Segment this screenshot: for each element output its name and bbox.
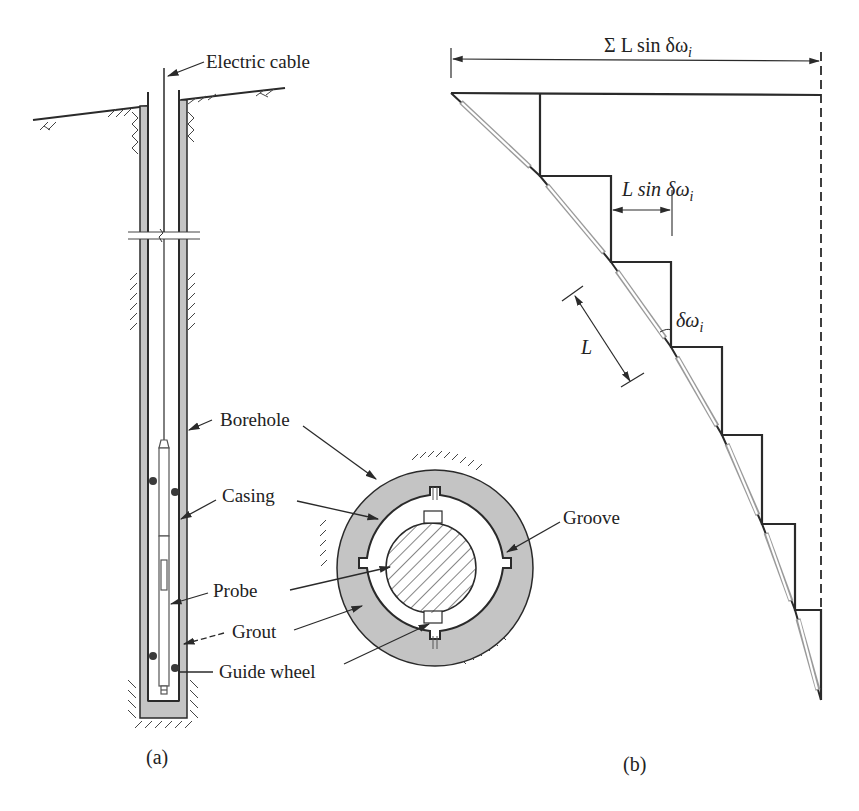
label-grout: Grout (232, 621, 277, 642)
caption-panel-b: (b) (623, 753, 646, 776)
figure-svg: Electric cable Borehole Casing Probe Gro… (0, 0, 859, 811)
label-segment-length: L (580, 336, 592, 358)
label-groove: Groove (563, 507, 620, 528)
ground-surface-right (181, 88, 285, 100)
label-total-deflection: Σ L sin δωi (604, 34, 692, 60)
label-borehole: Borehole (220, 409, 290, 430)
ground-surface-left (33, 106, 148, 120)
label-step-deflection: L sin δωi (621, 178, 694, 204)
total-deflection-dimension (453, 59, 819, 61)
label-guide-wheel: Guide wheel (219, 661, 316, 682)
guide-wheel-icon (149, 652, 157, 660)
probe (159, 440, 169, 694)
guide-wheel-icon (149, 477, 157, 485)
caption-panel-a: (a) (146, 746, 168, 769)
guide-wheel-icon (171, 488, 179, 496)
label-angle: δωi (676, 309, 703, 335)
casing-cross-section (320, 451, 533, 666)
label-casing: Casing (222, 485, 275, 506)
break-gap (128, 232, 200, 239)
label-probe: Probe (213, 580, 257, 601)
guide-wheel-icon (171, 664, 179, 672)
top-reference-line (451, 93, 821, 95)
label-electric-cable: Electric cable (206, 51, 310, 72)
inclinometer-figure: Electric cable Borehole Casing Probe Gro… (0, 0, 859, 811)
